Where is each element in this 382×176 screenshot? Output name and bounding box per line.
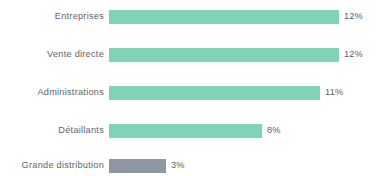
bar-track	[109, 10, 339, 24]
bar-detaillants[interactable]	[109, 124, 262, 138]
bar-track	[109, 86, 320, 100]
bar-category-label: Administrations	[0, 88, 104, 97]
horizontal-bar-chart: Entreprises 12% Vente directe 12% Admini…	[0, 0, 382, 176]
table-row: Grande distribution 3%	[0, 151, 382, 176]
bar-track	[109, 48, 339, 62]
bar-category-label: Grande distribution	[0, 161, 104, 170]
table-row: Entreprises 12%	[0, 2, 382, 32]
bar-entreprises[interactable]	[109, 10, 339, 24]
bar-value-label: 12%	[344, 50, 363, 59]
bar-category-label: Entreprises	[0, 12, 104, 21]
table-row: Vente directe 12%	[0, 40, 382, 70]
bar-value-label: 11%	[325, 88, 343, 97]
bar-value-label: 8%	[267, 126, 281, 135]
bar-administrations[interactable]	[109, 86, 320, 100]
table-row: Administrations 11%	[0, 78, 382, 108]
bar-track	[109, 159, 166, 173]
bar-track	[109, 124, 262, 138]
bar-category-label: Vente directe	[0, 50, 104, 59]
bar-value-label: 12%	[344, 12, 363, 21]
bar-grande-distribution[interactable]	[109, 159, 166, 173]
bar-value-label: 3%	[171, 161, 185, 170]
bar-vente-directe[interactable]	[109, 48, 339, 62]
table-row: Détaillants 8%	[0, 116, 382, 146]
bar-category-label: Détaillants	[0, 126, 104, 135]
